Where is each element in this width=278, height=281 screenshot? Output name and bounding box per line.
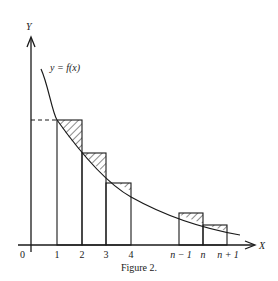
x-axis-label: X: [258, 240, 266, 251]
tick-3: 3: [104, 249, 109, 260]
tick-n-minus-1: n − 1: [170, 249, 192, 260]
tick-n: n: [201, 249, 206, 260]
tick-2: 2: [80, 249, 85, 260]
figure-caption: Figure 2.: [0, 262, 278, 273]
x-tick-labels: 1 2 3 4 n − 1 n n + 1: [55, 249, 239, 260]
curve-label: y = f(x): [49, 62, 81, 74]
rect-3-4: [106, 183, 131, 245]
figure-canvas: Y X y = f(x) 0 1 2 3 4 n − 1 n n + 1: [0, 0, 278, 281]
origin-label: 0: [20, 249, 25, 260]
y-axis-label: Y: [26, 21, 33, 32]
tick-n-plus-1: n + 1: [217, 249, 239, 260]
tick-1: 1: [55, 249, 60, 260]
tick-4: 4: [129, 249, 134, 260]
curve-f: [41, 69, 240, 235]
